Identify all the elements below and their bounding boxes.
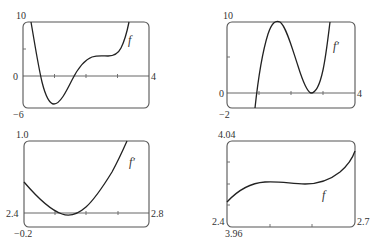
curve-fprime-zoom bbox=[24, 141, 127, 215]
curve-f bbox=[31, 22, 129, 104]
plot-frame bbox=[227, 22, 355, 108]
axis-left-label: 2.4 bbox=[212, 216, 225, 227]
curve-label: f′ bbox=[333, 39, 339, 53]
curve-fprime bbox=[255, 21, 330, 108]
y-min-label: 3.96 bbox=[225, 228, 243, 239]
panel-top-right-fprime: f′ 10 0 4 −2 bbox=[219, 10, 362, 120]
panel-top-left-f: f 10 0 4 −6 bbox=[13, 10, 156, 120]
axis-right-label: 2.7 bbox=[357, 216, 370, 227]
y-max-label: 1.0 bbox=[16, 129, 29, 140]
curve-label: f bbox=[128, 33, 133, 47]
curve-label: f′ bbox=[129, 155, 135, 169]
plot-frame bbox=[24, 141, 149, 227]
axis-left-label: 0 bbox=[13, 71, 18, 82]
y-min-label: −0.2 bbox=[14, 228, 32, 239]
y-max-label: 4.04 bbox=[218, 129, 236, 140]
panel-bottom-left-fprime: f′ 1.0 2.4 2.8 −0.2 bbox=[6, 129, 164, 239]
y-max-label: 10 bbox=[223, 10, 233, 21]
plot-frame bbox=[227, 141, 355, 227]
axis-right-label: 4 bbox=[151, 71, 156, 82]
figure-canvas: f 10 0 4 −6 f′ 10 0 4 −2 f′ 1.0 2.4 2.8 … bbox=[0, 0, 380, 239]
y-min-label: −6 bbox=[13, 109, 24, 120]
axis-left-label: 2.4 bbox=[6, 208, 19, 219]
curve-label: f bbox=[322, 188, 327, 202]
panel-bottom-right-f: f 4.04 2.4 2.7 3.96 bbox=[212, 129, 370, 239]
y-max-label: 10 bbox=[16, 10, 26, 21]
axis-right-label: 2.8 bbox=[151, 208, 164, 219]
axis-right-label: 4 bbox=[357, 88, 362, 99]
curve-f-zoom bbox=[227, 151, 355, 202]
axis-left-label: 0 bbox=[219, 88, 224, 99]
y-min-label: −2 bbox=[219, 109, 230, 120]
